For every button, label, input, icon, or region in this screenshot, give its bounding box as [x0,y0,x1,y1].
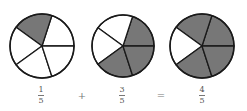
pie-one-fifth [10,14,74,78]
equals-sign: = [155,91,167,101]
pie-three-fifths [92,15,154,77]
plus-sign: + [76,91,88,101]
fraction-four-fifths: 4 5 [195,86,209,105]
denominator: 5 [115,97,129,105]
pie-four-fifths [170,14,234,78]
numerator: 4 [195,86,209,94]
fraction-three-fifths: 3 5 [115,86,129,105]
fraction-one-fifth: 1 5 [34,86,48,105]
denominator: 5 [34,97,48,105]
numerator: 3 [115,86,129,94]
denominator: 5 [195,97,209,105]
numerator: 1 [34,86,48,94]
